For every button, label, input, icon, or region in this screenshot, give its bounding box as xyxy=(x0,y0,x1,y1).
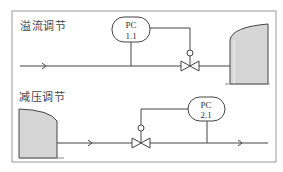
controller-loop-1: 1.1 xyxy=(125,31,136,41)
controller-tag-1: PC xyxy=(125,20,136,30)
section-pressure-reducing xyxy=(19,97,268,158)
signal-line-1 xyxy=(150,28,190,50)
controller-loop-2: 2.1 xyxy=(200,110,211,120)
controller-tag-2: PC xyxy=(200,100,211,110)
control-valve-icon xyxy=(181,50,199,71)
signal-line-2 xyxy=(141,109,188,125)
tank-icon xyxy=(19,109,57,158)
section-title-overflow: 溢流调节 xyxy=(20,17,66,33)
section-title-pressure-reducing: 减压调节 xyxy=(19,88,65,104)
tank-icon xyxy=(230,24,268,84)
control-valve-icon xyxy=(132,125,150,148)
